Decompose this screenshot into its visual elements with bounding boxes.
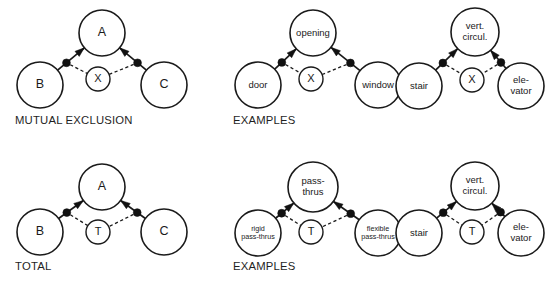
node-label-left: B xyxy=(36,224,44,238)
constraint-link-right xyxy=(322,215,347,227)
node-label-top: pass- xyxy=(301,175,324,186)
node-label-right: window xyxy=(361,79,394,90)
panel-caption: MUTUAL EXCLUSION xyxy=(15,114,133,126)
junction-dot-right xyxy=(497,208,505,216)
constraint-link-left xyxy=(70,215,87,226)
diagram-canvas: ABCXopeningdoorwindowXvert.circul.staire… xyxy=(0,0,554,292)
junction-dot-right xyxy=(347,59,355,67)
node-label-top: A xyxy=(98,179,107,193)
node-label-top: circul. xyxy=(463,31,488,42)
node-label-left: pass-thrus xyxy=(241,232,275,241)
junction-dot-left xyxy=(439,59,447,67)
node-label-right: C xyxy=(159,77,168,91)
relation-marker-label: T xyxy=(469,225,476,237)
node-label-left: door xyxy=(248,79,267,90)
panels-layer: ABCXopeningdoorwindowXvert.circul.staire… xyxy=(17,8,544,256)
node-label-top: circul. xyxy=(463,185,488,196)
node-label-left: stair xyxy=(410,80,428,91)
node-label-right: ele- xyxy=(513,221,529,232)
constraint-link-right xyxy=(322,65,346,75)
relation-marker-label: T xyxy=(95,225,102,237)
node-label-right: vator xyxy=(510,232,531,243)
relation-marker-label: X xyxy=(307,72,315,84)
constraint-link-right xyxy=(109,64,134,74)
node-label-top: thrus xyxy=(302,186,323,197)
constraint-link-right xyxy=(109,214,134,226)
junction-dot-left xyxy=(278,209,286,217)
constraint-link-left xyxy=(285,65,300,74)
node-label-left: stair xyxy=(410,227,428,238)
junction-dot-right xyxy=(134,59,142,67)
node-label-top: opening xyxy=(296,27,330,38)
constraint-link-right xyxy=(482,215,497,226)
panel-caption: EXAMPLES xyxy=(233,114,296,126)
relation-panel: ABCT xyxy=(17,164,187,255)
arrowhead-right xyxy=(121,201,131,209)
arrowhead-right xyxy=(333,201,343,209)
relation-marker-label: T xyxy=(308,225,315,237)
constraint-link-right xyxy=(482,65,497,74)
relation-panel: pass-thrusrigidpass-thrusflexiblepass-th… xyxy=(235,162,401,256)
node-label-top: A xyxy=(98,25,107,39)
node-label-right: vator xyxy=(510,85,531,96)
node-label-top: vert. xyxy=(466,174,484,185)
relation-marker-label: X xyxy=(468,73,476,85)
junction-dot-left xyxy=(439,209,447,217)
relation-panel: vert.circul.stairele-vatorX xyxy=(396,8,544,109)
constraint-link-left xyxy=(70,65,87,74)
diagram-root: ABCXopeningdoorwindowXvert.circul.staire… xyxy=(0,0,554,292)
node-label-left: B xyxy=(36,77,44,91)
panel-caption: EXAMPLES xyxy=(233,260,296,272)
constraint-link-left xyxy=(447,215,462,225)
node-label-top: vert. xyxy=(466,20,484,31)
node-label-right: pass-thrus xyxy=(361,232,395,241)
relation-marker-label: X xyxy=(94,72,102,84)
constraint-link-left xyxy=(285,215,301,225)
junction-dot-left xyxy=(278,59,286,67)
relation-panel: ABCX xyxy=(17,10,187,108)
node-label-right: C xyxy=(159,224,168,238)
junction-dot-left xyxy=(63,209,71,217)
junction-dot-right xyxy=(347,210,355,218)
junction-dot-right xyxy=(497,59,505,67)
relation-panel: vert.circul.stairele-vatorT xyxy=(396,162,544,256)
panel-caption: TOTAL xyxy=(15,260,51,272)
node-label-right: ele- xyxy=(513,74,529,85)
arrowhead-left xyxy=(74,201,84,209)
junction-dot-left xyxy=(63,59,71,67)
relation-panel: openingdoorwindowX xyxy=(235,10,401,108)
junction-dot-right xyxy=(133,209,141,217)
constraint-link-left xyxy=(447,65,462,74)
